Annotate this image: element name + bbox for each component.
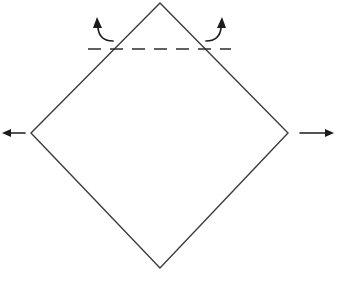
diagram-canvas [0, 0, 338, 284]
figure-root [0, 0, 338, 284]
canvas-background [0, 0, 338, 284]
